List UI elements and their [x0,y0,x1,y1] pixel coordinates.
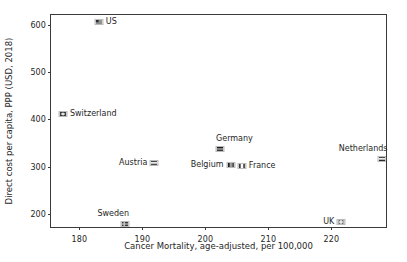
x-tick-mark [268,227,269,230]
x-tick-mark [142,227,143,230]
data-point-belgium-flag-icon[interactable] [226,162,235,168]
y-tick-mark [48,72,51,73]
y-axis-title: Direct cost per capita, PPP (USD, 2018) [3,14,15,228]
y-tick-label: 600 [30,20,46,29]
data-point-netherlands-flag-icon[interactable] [377,156,386,162]
data-point-us-flag-icon[interactable] [94,19,103,25]
y-axis-title-text: Direct cost per capita, PPP (USD, 2018) [4,38,14,205]
x-tick-mark [331,227,332,230]
data-point-austria-flag-icon[interactable] [150,160,159,166]
data-point-switzerland-flag-icon[interactable] [58,111,67,117]
data-point-label-netherlands: Netherlands [339,145,388,153]
x-tick-mark [205,227,206,230]
y-tick-mark [48,167,51,168]
data-point-label-belgium: Belgium [191,161,224,169]
y-tick-label: 500 [30,68,46,77]
data-point-sweden-flag-icon[interactable] [121,221,130,227]
data-point-germany-flag-icon[interactable] [216,146,225,152]
data-point-label-uk: UK [323,218,334,226]
data-point-label-austria: Austria [119,159,147,167]
plot-area: 180190200210220 200300400500600 USSwitze… [50,14,387,228]
data-point-label-france: France [249,162,276,170]
y-tick-mark [48,119,51,120]
x-axis-title: Cancer Mortality, age-adjusted, per 100,… [50,241,387,251]
data-point-label-switzerland: Switzerland [70,110,117,118]
x-tick-mark [79,227,80,230]
data-point-label-germany: Germany [216,135,253,143]
y-tick-label: 400 [30,115,46,124]
data-point-uk-flag-icon[interactable] [337,219,346,225]
data-point-france-flag-icon[interactable] [237,163,246,169]
y-tick-mark [48,25,51,26]
scatter-chart-figure: Direct cost per capita, PPP (USD, 2018) … [0,0,407,262]
y-tick-label: 300 [30,162,46,171]
y-tick-label: 200 [30,209,46,218]
data-point-label-sweden: Sweden [97,210,129,218]
data-point-label-us: US [106,18,117,26]
y-tick-mark [48,214,51,215]
